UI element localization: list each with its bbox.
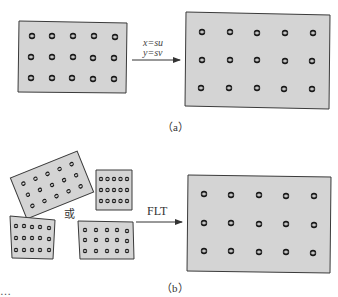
panel-b-small-grid <box>96 170 132 210</box>
caption-b: （b） <box>161 279 189 295</box>
panel-b-rotated-grid <box>10 151 93 219</box>
panel-a-target-grid <box>185 12 330 109</box>
panel-b-skewed-grid <box>78 221 134 259</box>
flt-label: FLT <box>147 204 167 219</box>
caption-a: （a） <box>162 118 189 134</box>
truncated-footer-text: … <box>0 291 100 297</box>
panel-a-source-grid <box>18 21 127 93</box>
connector-or-label: 或 <box>64 205 75 221</box>
transform-label-y: y=sv <box>143 48 163 58</box>
diagram-canvas <box>0 0 338 297</box>
panel-b-target-grid <box>187 175 331 273</box>
panel-b-trapezoid-grid <box>10 216 55 259</box>
